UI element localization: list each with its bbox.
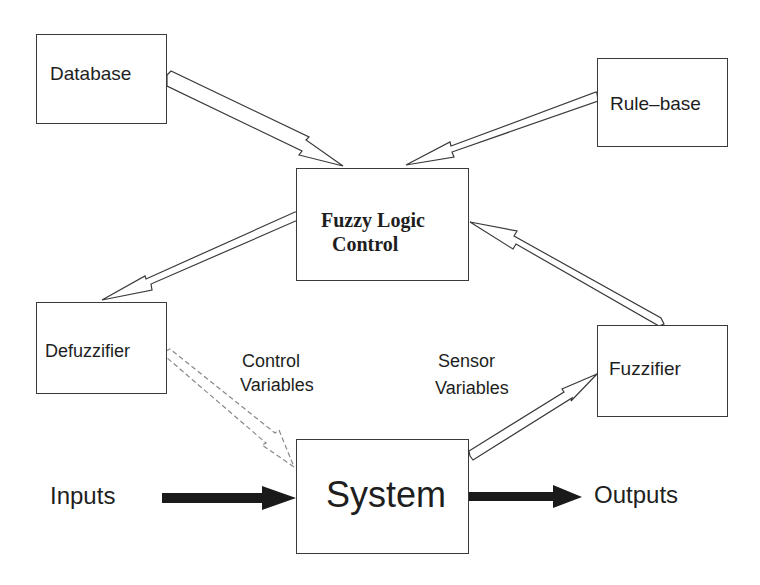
control-variables-label-line2: Variables — [240, 375, 314, 396]
arrow-fuzzifier-to-flc — [470, 222, 664, 326]
database-box: Database — [36, 34, 167, 124]
defuzzifier-label: Defuzzifier — [45, 341, 130, 362]
inputs-label: Inputs — [50, 482, 115, 510]
flc-label-line2: Control — [332, 233, 398, 256]
sensor-variables-label-line2: Variables — [435, 378, 509, 399]
outputs-label: Outputs — [594, 481, 678, 509]
control-variables-label-line1: Control — [242, 351, 300, 372]
sensor-variables-label-line1: Sensor — [438, 351, 495, 372]
fuzzifier-box: Fuzzifier — [597, 325, 728, 417]
arrow-inputs-to-system — [162, 486, 296, 510]
rule-base-box: Rule–base — [597, 58, 728, 147]
fuzzifier-label: Fuzzifier — [609, 358, 681, 380]
system-box: System — [296, 439, 469, 554]
defuzzifier-box: Defuzzifier — [36, 302, 167, 394]
arrow-database-to-flc — [167, 71, 343, 166]
arrow-system-to-outputs — [469, 485, 582, 508]
fuzzy-logic-control-box: Fuzzy Logic Control — [296, 168, 469, 281]
arrow-rulebase-to-flc — [406, 92, 598, 165]
arrow-flc-to-defuzzifier — [102, 212, 298, 300]
rule-base-label: Rule–base — [610, 93, 701, 115]
flc-label-line1: Fuzzy Logic — [321, 209, 425, 232]
database-label: Database — [50, 63, 131, 85]
system-label: System — [326, 474, 446, 516]
